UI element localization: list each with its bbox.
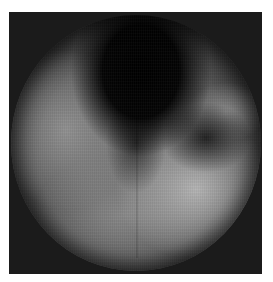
endoscope-view — [11, 15, 261, 271]
circular-vignette — [11, 15, 261, 271]
image-frame — [9, 12, 262, 274]
